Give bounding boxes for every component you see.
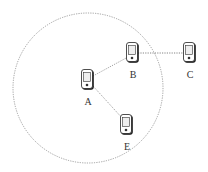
edge-a-b — [93, 57, 128, 76]
network-diagram: A B C E — [0, 0, 208, 172]
edge-a-e — [93, 86, 123, 119]
node-label-c: C — [187, 69, 194, 80]
node-a: A — [82, 70, 94, 108]
mobile-device-icon — [82, 70, 94, 90]
mobile-device-icon — [121, 115, 133, 135]
node-label-b: B — [130, 69, 137, 80]
node-c: C — [184, 43, 196, 81]
node-b: B — [127, 43, 139, 81]
node-label-a: A — [84, 96, 92, 107]
mobile-device-icon — [127, 43, 139, 63]
mobile-device-icon — [184, 43, 196, 63]
node-label-e: E — [124, 141, 130, 152]
node-e: E — [121, 115, 133, 153]
